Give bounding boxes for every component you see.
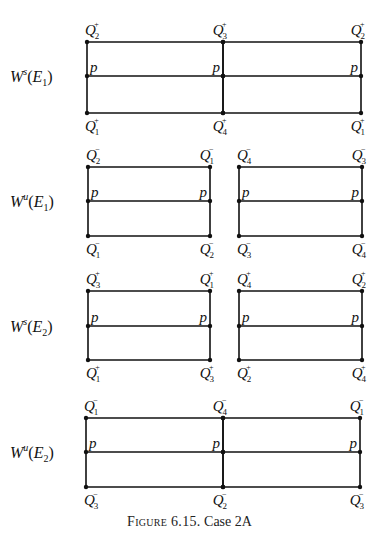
vertex-dot bbox=[84, 485, 88, 489]
q-label: Q2+ bbox=[237, 363, 251, 384]
vertex-dot bbox=[221, 450, 225, 454]
p-label: p bbox=[88, 435, 97, 451]
vertex-dot bbox=[86, 165, 90, 169]
p-label: p bbox=[212, 59, 221, 75]
figure-caption: Figure 6.15. Case 2A bbox=[0, 514, 379, 530]
p-label: p bbox=[241, 309, 250, 325]
vertex-dot bbox=[359, 111, 363, 115]
p-label: p bbox=[351, 309, 360, 325]
vertex-dot bbox=[360, 199, 364, 203]
q-label: Q4+ bbox=[352, 363, 367, 384]
vertex-dot bbox=[84, 450, 88, 454]
vertex-dot bbox=[360, 358, 364, 362]
row-label-Ws_E2: Ws(E2) bbox=[10, 316, 53, 338]
q-label: Q2− bbox=[86, 145, 100, 166]
q-label: Q1− bbox=[200, 145, 214, 166]
vertex-dot bbox=[358, 485, 362, 489]
vertex-dot bbox=[221, 40, 225, 44]
p-label: p bbox=[199, 184, 208, 200]
row-label-Ws_E1: Ws(E1) bbox=[10, 66, 53, 88]
vertex-dot bbox=[221, 111, 225, 115]
vertex-dot bbox=[221, 416, 225, 420]
vertex-dot bbox=[359, 74, 363, 78]
q-label: Q1+ bbox=[85, 116, 99, 137]
q-label: Q4+ bbox=[213, 116, 228, 137]
vertex-dot bbox=[360, 234, 364, 238]
q-label: Q3− bbox=[352, 145, 367, 166]
row-label-Wu_E2: Wu(E2) bbox=[10, 442, 54, 464]
p-label: p bbox=[90, 309, 99, 325]
q-label: Q2− bbox=[200, 239, 214, 260]
q-label: Q1− bbox=[350, 396, 364, 417]
vertex-dot bbox=[208, 358, 212, 362]
q-label: Q3− bbox=[350, 490, 365, 511]
q-label: Q3− bbox=[237, 239, 252, 260]
p-label: p bbox=[212, 435, 221, 451]
vertex-dot bbox=[86, 324, 90, 328]
q-label: Q2− bbox=[213, 490, 227, 511]
q-label: Q2+ bbox=[351, 20, 365, 41]
p-label: p bbox=[350, 59, 359, 75]
vertex-dot bbox=[86, 199, 90, 203]
q-label: Q4− bbox=[352, 239, 367, 260]
q-label: Q3− bbox=[84, 490, 99, 511]
vertex-dot bbox=[208, 234, 212, 238]
p-label: p bbox=[199, 309, 208, 325]
vertex-dot bbox=[237, 358, 241, 362]
vertex-dot bbox=[221, 74, 225, 78]
figure-caption-prefix: Figure 6.15. bbox=[127, 514, 200, 529]
vertex-dot bbox=[237, 199, 241, 203]
vertex-dot bbox=[84, 416, 88, 420]
p-label: p bbox=[351, 184, 360, 200]
vertex-dot bbox=[85, 74, 89, 78]
vertex-dot bbox=[237, 324, 241, 328]
q-label: Q4− bbox=[213, 396, 228, 417]
vertex-dot bbox=[237, 234, 241, 238]
vertex-dot bbox=[358, 450, 362, 454]
q-label: Q1− bbox=[86, 239, 100, 260]
vertex-dot bbox=[85, 111, 89, 115]
case-2a-diagram: Ws(E1)Q2+Q3+Q1+Q4+ppQ2+Q1+pWu(E1)Q2−Q1−Q… bbox=[0, 0, 379, 546]
p-label: p bbox=[349, 435, 358, 451]
p-label: p bbox=[241, 184, 250, 200]
vertex-dot bbox=[86, 289, 90, 293]
q-label: Q1− bbox=[84, 396, 98, 417]
vertex-dot bbox=[237, 289, 241, 293]
q-label: Q1+ bbox=[86, 363, 100, 384]
vertex-dot bbox=[208, 199, 212, 203]
p-label: p bbox=[89, 59, 98, 75]
figure-caption-text: Case 2A bbox=[204, 514, 252, 529]
q-label: Q4+ bbox=[237, 269, 252, 290]
vertex-dot bbox=[237, 165, 241, 169]
q-label: Q3+ bbox=[200, 363, 215, 384]
q-label: Q2+ bbox=[85, 20, 99, 41]
vertex-dot bbox=[86, 234, 90, 238]
vertex-dot bbox=[221, 485, 225, 489]
vertex-dot bbox=[85, 40, 89, 44]
vertex-dot bbox=[208, 324, 212, 328]
q-label: Q2+ bbox=[352, 269, 366, 290]
q-label: Q3+ bbox=[86, 269, 101, 290]
q-label: Q4− bbox=[237, 145, 252, 166]
vertex-dot bbox=[360, 324, 364, 328]
q-label: Q1+ bbox=[200, 269, 214, 290]
p-label: p bbox=[90, 184, 99, 200]
q-label: Q1+ bbox=[351, 116, 365, 137]
q-label: Q3+ bbox=[213, 20, 228, 41]
row-label-Wu_E1: Wu(E1) bbox=[10, 191, 54, 213]
vertex-dot bbox=[86, 358, 90, 362]
